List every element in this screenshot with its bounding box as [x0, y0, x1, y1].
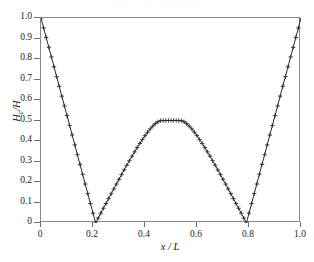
data-point-marker: [106, 196, 110, 200]
data-point-marker: [296, 26, 300, 30]
data-point-marker: [275, 104, 279, 108]
data-point-marker: [104, 201, 108, 205]
data-point-marker: [41, 26, 45, 30]
data-point-marker: [216, 168, 220, 172]
x-tick-label: 0.4: [129, 229, 159, 239]
x-axis-label: x / L: [40, 241, 300, 252]
y-tick-mark: [34, 99, 40, 100]
data-point-marker: [83, 182, 87, 186]
data-point-marker: [229, 191, 233, 195]
y-tick-mark: [34, 181, 40, 182]
data-point-marker: [265, 143, 269, 147]
data-point-marker: [88, 201, 92, 205]
data-point-marker: [122, 168, 126, 172]
data-point-marker: [67, 123, 71, 127]
data-point-marker: [91, 211, 95, 215]
data-point-marker: [286, 65, 290, 69]
figure-container: ··· ·· ··· ·· · ···· ············ 00.10.…: [0, 0, 314, 262]
y-tick-label: 0.8: [6, 53, 32, 63]
data-point-marker: [70, 133, 74, 137]
data-point-marker: [80, 172, 84, 176]
data-point-marker: [283, 74, 287, 78]
y-tick-mark: [34, 79, 40, 80]
data-point-marker: [114, 182, 118, 186]
x-tick-mark: [40, 222, 41, 227]
data-point-marker: [208, 154, 212, 158]
x-tick-mark: [92, 222, 93, 227]
x-tick-label: 0.6: [181, 229, 211, 239]
data-point-marker: [73, 143, 77, 147]
data-point-marker: [288, 55, 292, 59]
data-point-marker: [213, 163, 217, 167]
data-point-marker: [52, 65, 56, 69]
data-point-marker: [54, 74, 58, 78]
y-tick-label: 0.2: [6, 176, 32, 186]
data-point-marker: [247, 211, 251, 215]
data-point-marker: [130, 154, 134, 158]
data-point-marker: [273, 113, 277, 117]
data-point-marker: [242, 216, 246, 220]
data-point-marker: [210, 158, 214, 162]
y-tick-mark: [34, 120, 40, 121]
data-point-marker: [294, 35, 298, 39]
data-point-marker: [226, 187, 230, 191]
y-axis-label: Hc/H: [11, 81, 25, 141]
data-point-marker: [125, 163, 129, 167]
x-tick-label: 0.2: [77, 229, 107, 239]
data-point-marker: [239, 211, 243, 215]
y-axis-label-text: Hc/H: [11, 100, 22, 121]
data-point-marker: [257, 172, 261, 176]
data-point-marker: [223, 182, 227, 186]
y-tick-label: 1.0: [6, 12, 32, 22]
data-point-marker: [119, 172, 123, 176]
data-point-marker: [218, 172, 222, 176]
data-point-marker: [260, 162, 264, 166]
data-point-marker: [281, 84, 285, 88]
data-point-marker: [179, 119, 183, 123]
y-tick-mark: [34, 38, 40, 39]
data-point-marker: [41, 18, 43, 20]
data-point-marker: [236, 206, 240, 210]
data-point-marker: [299, 18, 301, 20]
data-point-marker: [249, 201, 253, 205]
y-tick-label: 0.9: [6, 33, 32, 43]
data-markers: [41, 18, 301, 223]
data-point-marker: [117, 177, 121, 181]
y-tick-mark: [34, 202, 40, 203]
y-tick-mark: [34, 58, 40, 59]
data-point-marker: [96, 216, 100, 220]
data-point-marker: [86, 191, 90, 195]
x-tick-label: 0: [25, 229, 55, 239]
data-point-marker: [65, 113, 69, 117]
cropped-caption-text: ··· ·· ··· ·· · ···· ············: [0, 0, 314, 9]
data-point-marker: [44, 35, 48, 39]
data-point-marker: [221, 177, 225, 181]
data-point-marker: [109, 191, 113, 195]
x-tick-label: 0.8: [233, 229, 263, 239]
data-point-marker: [270, 123, 274, 127]
x-tick-label: 1.0: [285, 229, 314, 239]
data-point-marker: [234, 201, 238, 205]
y-tick-mark: [34, 17, 40, 18]
data-point-marker: [231, 196, 235, 200]
data-point-marker: [75, 153, 79, 157]
x-tick-mark: [300, 222, 301, 227]
data-point-marker: [291, 45, 295, 49]
y-tick-label: 0.1: [6, 197, 32, 207]
y-tick-mark: [34, 140, 40, 141]
x-tick-mark: [144, 222, 145, 227]
data-point-marker: [255, 182, 259, 186]
data-point-marker: [112, 187, 116, 191]
data-point-marker: [205, 150, 209, 154]
x-tick-mark: [196, 222, 197, 227]
data-point-marker: [49, 55, 53, 59]
curve-plot: [41, 18, 301, 223]
data-point-marker: [127, 158, 131, 162]
data-point-marker: [262, 153, 266, 157]
plot-area: [40, 17, 300, 222]
data-point-marker: [78, 162, 82, 166]
data-point-marker: [268, 133, 272, 137]
data-point-marker: [47, 45, 51, 49]
y-tick-label: 0.3: [6, 156, 32, 166]
data-point-marker: [99, 211, 103, 215]
